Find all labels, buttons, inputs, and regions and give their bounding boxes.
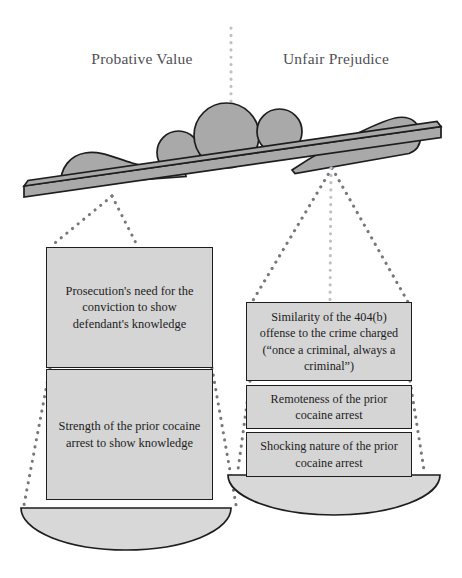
left-cord-outer [50, 196, 112, 247]
factor-text: Strength of the prior cocaine arrest to … [47, 418, 212, 451]
factor-box-prejudice-2: Remoteness of the prior cocaine arrest [246, 385, 412, 429]
factor-text: Similarity of the 404(b) offense to the … [247, 309, 411, 373]
right-cord-lower-right [410, 381, 424, 470]
balance-scale-diagram: .cord { stroke: #77777d; stroke-width: 3… [0, 0, 462, 578]
factor-box-prejudice-1: Similarity of the 404(b) offense to the … [246, 302, 412, 381]
heading-probative-value: Probative Value [54, 50, 230, 68]
factor-box-probative-2: Strength of the prior cocaine arrest to … [46, 369, 213, 500]
factor-text: Prosecution's need for the conviction to… [47, 283, 212, 332]
factor-text: Shocking nature of the prior cocaine arr… [247, 438, 411, 470]
heading-unfair-prejudice: Unfair Prejudice [248, 50, 424, 68]
pan-right [228, 475, 440, 515]
right-cord-outer-left [252, 168, 332, 302]
left-cord-inner [112, 196, 138, 247]
right-cord-outer-right [332, 168, 408, 302]
pan-left [21, 508, 231, 550]
right-cord-center [330, 168, 331, 302]
factor-text: Remoteness of the prior cocaine arrest [247, 391, 411, 423]
factor-box-prejudice-3: Shocking nature of the prior cocaine arr… [246, 432, 412, 477]
factor-box-probative-1: Prosecution's need for the conviction to… [46, 247, 213, 368]
